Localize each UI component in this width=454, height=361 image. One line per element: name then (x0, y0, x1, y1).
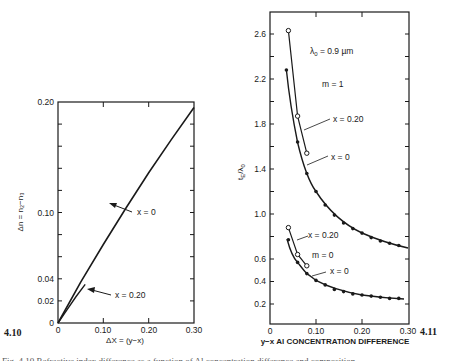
arrow-icon (87, 287, 111, 295)
x-tick-label: 0.20 (354, 326, 371, 336)
x-tick-label: 0.30 (186, 325, 203, 335)
leader-line (304, 119, 330, 130)
chart-4-10: 0 0.10 0.20 0.30 0 0.02 0.04 0.10 0.20 Δ… (4, 97, 203, 345)
annotation-x0: x = 0 (137, 207, 156, 217)
figure-caption: Fig. 4.10 Refractive index difference as… (2, 351, 454, 361)
x-tick-label: 0 (56, 325, 61, 335)
annotation-m0-x0: x = 0 (330, 266, 349, 276)
x-tick-label: 0 (268, 326, 273, 336)
y-ticks (58, 124, 194, 301)
y-tick-label: 2.6 (254, 29, 266, 39)
x-tick-label: 0.20 (141, 325, 158, 335)
svg-text:tE/λ0: tE/λ0 (236, 164, 246, 180)
series-x020-line (58, 284, 85, 323)
x-tick-label: 0.10 (308, 326, 325, 336)
annotation-lambda: λ0 = 0.9 µm (310, 46, 353, 57)
y-tick-label: 1.8 (254, 119, 266, 129)
figure-number: 4.10 (4, 327, 22, 338)
x-tick-label: 0.30 (400, 326, 417, 336)
leader-line (307, 156, 328, 165)
figure-number: 4.11 (420, 326, 437, 337)
y-tick-label: 0.20 (37, 97, 54, 107)
annotation-m1-x0: x = 0 (331, 152, 350, 162)
y-axis-title: Δn = n₂−n₃ (16, 193, 25, 232)
y-ticks (270, 34, 409, 304)
leader-line (297, 236, 308, 240)
y-axis-title: tE/λ0 (236, 164, 246, 180)
annotation-x020: x = 0.20 (115, 290, 146, 300)
y-tick-label: 0 (49, 318, 54, 328)
x-axis-title: y−x Al CONCENTRATION DIFFERENCE (261, 337, 410, 346)
chart-4-11: 2.6 2.2 1.8 1.4 1.0 0.6 0.4 0.2 0 0.10 0… (236, 12, 437, 346)
y-tick-label: 0.2 (254, 299, 266, 309)
leader-line (312, 272, 326, 276)
y-tick-label: 0.02 (37, 296, 54, 306)
x-ticks (316, 12, 362, 324)
annotation-m0: m = 0 (312, 250, 334, 260)
y-tick-label: 0.6 (254, 254, 266, 264)
figure-canvas: 0 0.10 0.20 0.30 0 0.02 0.04 0.10 0.20 Δ… (0, 0, 454, 361)
annotation-m0-x020: x = 0.20 (308, 230, 339, 240)
y-tick-label: 1.0 (254, 209, 266, 219)
y-tick-label: 0.04 (37, 274, 54, 284)
x-axis-title: ΔX = (y−x) (106, 336, 144, 345)
x-tick-label: 0.10 (95, 325, 112, 335)
y-tick-label: 0.10 (37, 208, 54, 218)
annotation-m1: m = 1 (322, 79, 344, 89)
series-m1-x020-line (288, 31, 306, 154)
annotation-m1-x020: x = 0.20 (333, 114, 364, 124)
y-tick-label: 2.2 (254, 74, 266, 84)
y-tick-label: 1.4 (254, 164, 266, 174)
series-m0-x020-line (288, 228, 306, 266)
y-tick-label: 0.4 (254, 276, 266, 286)
